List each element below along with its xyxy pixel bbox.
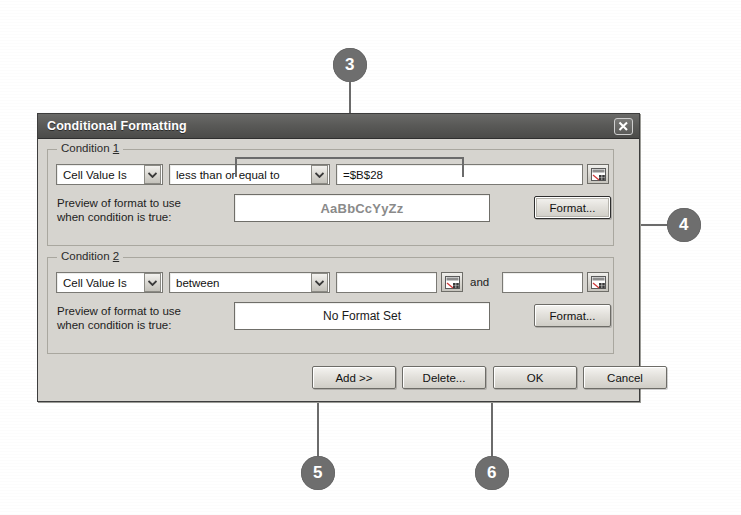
add-button-label: Add >> [335,372,372,384]
condition-1-preview-box: AaBbCcYyZz [234,194,490,222]
cancel-button[interactable]: Cancel [583,366,667,389]
callout-3: 3 [333,48,367,82]
value2-input-condition2[interactable] [502,272,583,293]
range-selector-icon-condition2-value2[interactable] [587,272,609,292]
dialog-body: Condition 1 Cell Value Is less than or e… [38,139,639,402]
range-selector-icon-condition2-value1[interactable] [441,272,463,292]
delete-button-label: Delete... [423,372,466,384]
condition-2-comparison-value: between [170,277,311,289]
chevron-down-icon[interactable] [144,273,161,292]
condition-2-legend: Condition 2 [57,250,123,262]
chevron-down-glyph [148,280,157,286]
callout-4: 4 [667,208,701,242]
callout-3-number: 3 [345,55,355,75]
delete-button[interactable]: Delete... [402,366,486,389]
range-selector-glyph [591,168,606,181]
dialog-title: Conditional Formatting [47,119,614,133]
range-selector-icon-condition1[interactable] [587,164,609,184]
dialog-titlebar[interactable]: Conditional Formatting [38,114,639,139]
condition-2-legend-number: 2 [113,250,119,262]
chevron-down-glyph [315,280,324,286]
callout-5-number: 5 [313,463,323,483]
condition-2-preview-text: No Format Set [323,309,401,323]
format-button-condition2[interactable]: Format... [534,304,611,327]
range-selector-glyph [445,276,460,289]
ok-button[interactable]: OK [493,366,577,389]
chevron-down-icon[interactable] [144,165,161,184]
callout-3-bracket [235,156,465,178]
condition-1-legend: Condition 1 [57,142,123,154]
callout-4-number: 4 [679,215,689,235]
format-button-condition1[interactable]: Format... [534,196,611,219]
condition-1-type-value: Cell Value Is [57,169,144,181]
condition-1-preview-label: Preview of format to use when condition … [57,197,217,224]
add-button[interactable]: Add >> [312,366,396,389]
condition-2-type-value: Cell Value Is [57,277,144,289]
condition-1-preview-text: AaBbCcYyZz [321,201,404,216]
ok-button-label: OK [527,372,544,384]
chevron-down-icon[interactable] [311,273,328,292]
condition-2-preview-box: No Format Set [234,302,490,330]
callout-6-number: 6 [487,463,497,483]
condition-2-preview-label: Preview of format to use when condition … [57,305,217,332]
cancel-button-label: Cancel [607,372,643,384]
condition-2-legend-text: Condition [61,250,113,262]
format-button-condition2-label: Format... [549,310,595,322]
condition-2-type-dropdown[interactable]: Cell Value Is [56,272,163,293]
and-label: and [470,276,489,288]
callout-5: 5 [301,456,335,490]
callout-6: 6 [475,456,509,490]
format-button-condition1-label: Format... [549,202,595,214]
close-icon[interactable] [614,118,633,135]
chevron-down-glyph [148,172,157,178]
value1-input-condition2[interactable] [336,272,437,293]
condition-1-legend-text: Condition [61,142,113,154]
close-x-glyph [617,120,630,133]
range-selector-glyph [591,276,606,289]
condition-1-legend-number: 1 [113,142,119,154]
condition-2-comparison-dropdown[interactable]: between [169,272,330,293]
condition-1-type-dropdown[interactable]: Cell Value Is [56,164,163,185]
